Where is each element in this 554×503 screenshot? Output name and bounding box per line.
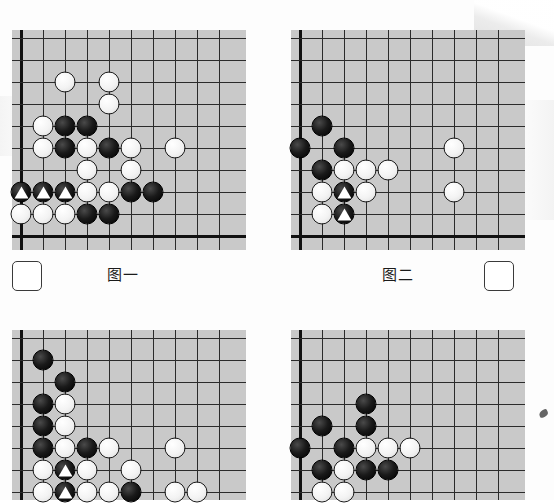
black-stone[interactable]: [356, 460, 377, 481]
white-stone[interactable]: [55, 438, 76, 459]
white-stone[interactable]: [165, 482, 186, 503]
grid-line-horizontal: [291, 338, 525, 339]
black-stone-marked[interactable]: [11, 182, 32, 203]
black-stone[interactable]: [334, 138, 355, 159]
white-stone[interactable]: [77, 460, 98, 481]
black-stone[interactable]: [121, 482, 142, 503]
white-stone[interactable]: [99, 438, 120, 459]
white-stone[interactable]: [99, 482, 120, 503]
black-stone[interactable]: [99, 204, 120, 225]
white-stone[interactable]: [33, 460, 54, 481]
board-4: [291, 330, 525, 500]
answer-box-right[interactable]: [484, 261, 514, 291]
black-stone-marked[interactable]: [55, 460, 76, 481]
board-1: [12, 30, 246, 250]
black-stone[interactable]: [77, 204, 98, 225]
black-stone-marked[interactable]: [334, 182, 355, 203]
white-stone[interactable]: [33, 204, 54, 225]
grid-line-vertical: [219, 330, 220, 500]
black-stone[interactable]: [33, 438, 54, 459]
black-stone[interactable]: [33, 394, 54, 415]
white-stone[interactable]: [77, 182, 98, 203]
white-stone[interactable]: [55, 394, 76, 415]
grid-line-vertical: [498, 30, 499, 250]
triangle-marker-icon: [58, 187, 72, 199]
black-stone[interactable]: [33, 350, 54, 371]
black-stone-marked[interactable]: [55, 482, 76, 503]
white-stone[interactable]: [334, 160, 355, 181]
black-stone-marked[interactable]: [55, 182, 76, 203]
white-stone[interactable]: [334, 460, 355, 481]
white-stone[interactable]: [444, 138, 465, 159]
white-stone[interactable]: [356, 182, 377, 203]
answer-box-left[interactable]: [12, 261, 42, 291]
black-stone[interactable]: [121, 182, 142, 203]
black-stone[interactable]: [290, 438, 311, 459]
white-stone[interactable]: [77, 138, 98, 159]
black-stone[interactable]: [312, 416, 333, 437]
grid-line-vertical: [20, 330, 23, 500]
grid-line-vertical: [432, 30, 433, 250]
grid-line-horizontal: [12, 82, 246, 83]
figure-two-label: 图二: [382, 263, 414, 284]
grid-line-horizontal: [12, 104, 246, 105]
white-stone[interactable]: [334, 482, 355, 503]
black-stone[interactable]: [143, 182, 164, 203]
black-stone[interactable]: [99, 138, 120, 159]
black-stone[interactable]: [356, 394, 377, 415]
white-stone[interactable]: [378, 438, 399, 459]
white-stone[interactable]: [121, 138, 142, 159]
white-stone[interactable]: [99, 182, 120, 203]
black-stone[interactable]: [312, 160, 333, 181]
grid-line-vertical: [109, 330, 110, 500]
grid-line-horizontal: [291, 360, 525, 361]
black-stone[interactable]: [378, 460, 399, 481]
black-stone[interactable]: [312, 116, 333, 137]
grid-line-horizontal: [12, 382, 246, 383]
white-stone[interactable]: [99, 94, 120, 115]
black-stone[interactable]: [312, 460, 333, 481]
white-stone[interactable]: [356, 160, 377, 181]
white-stone[interactable]: [378, 160, 399, 181]
black-stone[interactable]: [77, 116, 98, 137]
white-stone[interactable]: [400, 438, 421, 459]
grid-line-vertical: [153, 330, 154, 500]
white-stone[interactable]: [33, 138, 54, 159]
white-stone[interactable]: [187, 482, 208, 503]
black-stone[interactable]: [356, 416, 377, 437]
white-stone[interactable]: [11, 204, 32, 225]
triangle-marker-icon: [58, 465, 72, 477]
white-stone[interactable]: [77, 160, 98, 181]
white-stone[interactable]: [121, 160, 142, 181]
grid-line-vertical: [410, 330, 411, 500]
white-stone[interactable]: [165, 438, 186, 459]
black-stone[interactable]: [290, 138, 311, 159]
grid-line-vertical: [197, 30, 198, 250]
white-stone[interactable]: [99, 72, 120, 93]
white-stone[interactable]: [444, 182, 465, 203]
white-stone[interactable]: [312, 182, 333, 203]
black-stone[interactable]: [55, 116, 76, 137]
white-stone[interactable]: [77, 482, 98, 503]
white-stone[interactable]: [33, 116, 54, 137]
white-stone[interactable]: [121, 460, 142, 481]
black-stone[interactable]: [55, 372, 76, 393]
white-stone[interactable]: [312, 482, 333, 503]
white-stone[interactable]: [55, 204, 76, 225]
black-stone-marked[interactable]: [33, 182, 54, 203]
grid-line-vertical: [153, 30, 154, 250]
black-stone[interactable]: [334, 438, 355, 459]
scan-speck: [538, 408, 549, 418]
white-stone[interactable]: [55, 72, 76, 93]
white-stone[interactable]: [356, 438, 377, 459]
black-stone-marked[interactable]: [334, 204, 355, 225]
white-stone[interactable]: [312, 204, 333, 225]
white-stone[interactable]: [55, 416, 76, 437]
white-stone[interactable]: [33, 482, 54, 503]
black-stone[interactable]: [77, 438, 98, 459]
white-stone[interactable]: [165, 138, 186, 159]
grid-line-vertical: [299, 330, 302, 500]
grid-line-horizontal: [291, 235, 525, 238]
black-stone[interactable]: [55, 138, 76, 159]
black-stone[interactable]: [33, 416, 54, 437]
